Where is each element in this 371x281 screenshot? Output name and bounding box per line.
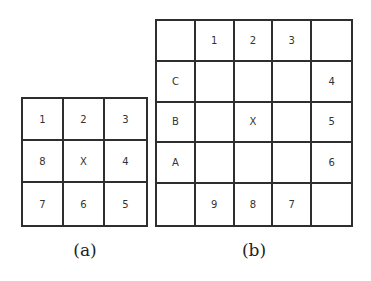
grid-cell: 3 (105, 99, 146, 141)
grid-cell: 3 (273, 21, 312, 62)
grid-cell: X (235, 103, 274, 144)
grid-cell (235, 143, 274, 184)
grid-b: 123C4BX5A6987 (155, 19, 353, 227)
grid-cell: 1 (196, 21, 235, 62)
grid-cell: C (157, 62, 196, 103)
grid-cell: 5 (312, 103, 351, 144)
grid-cell: X (64, 141, 105, 183)
grid-cell: 2 (235, 21, 274, 62)
grid-a: 1238X4765 (21, 97, 148, 227)
grid-cell (157, 21, 196, 62)
grid-cell: A (157, 143, 196, 184)
grid-cell: 8 (235, 184, 274, 225)
grid-cell (312, 21, 351, 62)
grid-cell: 8 (23, 141, 64, 183)
grid-cell (273, 143, 312, 184)
grid-cell (157, 184, 196, 225)
grid-cell (273, 103, 312, 144)
grid-cell: 6 (312, 143, 351, 184)
caption-a: (a) (55, 240, 115, 260)
grid-cell: 1 (23, 99, 64, 141)
grid-cell: 2 (64, 99, 105, 141)
grid-cell: 4 (312, 62, 351, 103)
grid-cell (273, 62, 312, 103)
grid-cell (196, 143, 235, 184)
grid-cell (196, 103, 235, 144)
grid-cell: B (157, 103, 196, 144)
caption-b: (b) (224, 240, 284, 260)
grid-cell: 4 (105, 141, 146, 183)
grid-cell (235, 62, 274, 103)
grid-cell: 7 (23, 183, 64, 225)
grid-cell: 6 (64, 183, 105, 225)
grid-cell (312, 184, 351, 225)
grid-cell: 5 (105, 183, 146, 225)
grid-cell: 9 (196, 184, 235, 225)
grid-cell: 7 (273, 184, 312, 225)
grid-cell (196, 62, 235, 103)
